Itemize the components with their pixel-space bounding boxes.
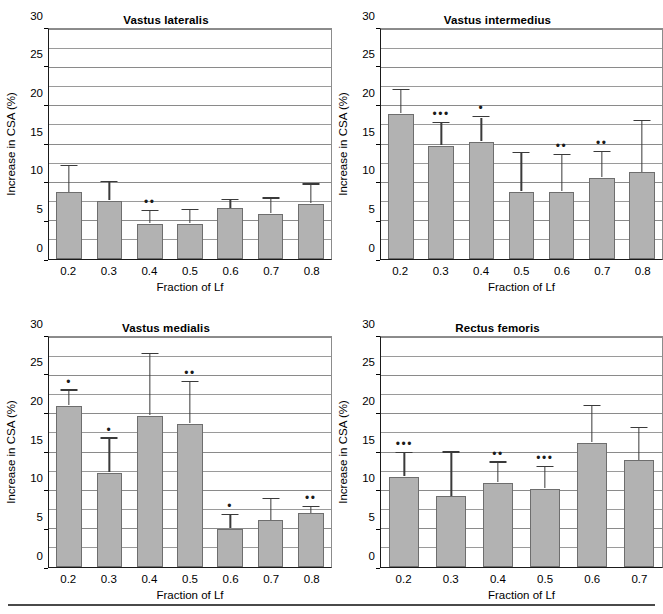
chart-body: Increase in CSA (%)051015202530•••••••0.… <box>0 336 332 601</box>
bar[interactable] <box>56 192 82 259</box>
bar[interactable] <box>469 142 495 259</box>
bar[interactable] <box>589 178 615 259</box>
y-axis-label-wrap: Increase in CSA (%) <box>0 28 22 260</box>
significance-marker: •• <box>144 196 156 208</box>
bar[interactable] <box>549 192 575 259</box>
plot-area: •••••••• <box>380 336 663 568</box>
bar-slot <box>622 29 662 259</box>
bar-slot: •• <box>291 337 331 567</box>
y-tick-label: 30 <box>362 319 375 331</box>
bar-slot <box>49 29 89 259</box>
chart-panel-2: Vastus intermediusIncrease in CSA (%)051… <box>332 0 663 308</box>
bar[interactable] <box>258 214 284 259</box>
bar[interactable] <box>436 496 466 567</box>
error-bar-cap <box>141 210 158 211</box>
error-bar <box>149 211 150 223</box>
x-tick-label: 0.6 <box>542 260 582 277</box>
bar[interactable] <box>56 406 82 567</box>
bar[interactable] <box>177 424 203 567</box>
chart-title: Vastus intermedius <box>332 0 663 28</box>
bar[interactable] <box>629 172 655 259</box>
y-tick-label: 10 <box>362 473 375 485</box>
x-tick-label: 0.4 <box>129 568 170 585</box>
bar[interactable] <box>388 114 414 259</box>
x-tick-label: 0.7 <box>616 568 663 585</box>
error-bar <box>404 453 405 475</box>
bar-slot: • <box>49 337 89 567</box>
y-tick-label: 5 <box>37 204 43 216</box>
bar[interactable] <box>298 513 324 567</box>
figure-panel-grid: Vastus lateralisIncrease in CSA (%)05101… <box>0 0 663 614</box>
x-tick-label: 0.5 <box>170 568 211 585</box>
bar[interactable] <box>97 473 123 567</box>
x-tick-label: 0.3 <box>89 260 130 277</box>
error-bar-cap <box>101 437 118 438</box>
x-tick-label: 0.7 <box>251 260 292 277</box>
bar[interactable] <box>217 529 243 567</box>
y-tick-label: 0 <box>369 243 375 255</box>
x-tick-label: 0.5 <box>522 568 569 585</box>
significance-marker: •• <box>305 492 317 504</box>
y-tick-label: 5 <box>369 512 375 524</box>
y-tick-label: 15 <box>362 435 375 447</box>
error-bar-cap <box>553 154 570 155</box>
chart-title: Vastus medialis <box>0 308 332 336</box>
plot-area: ••••••• <box>48 336 332 568</box>
bar-slot: ••• <box>421 29 461 259</box>
bar[interactable] <box>217 208 243 259</box>
y-axis-label: Increase in CSA (%) <box>5 92 17 196</box>
significance-marker: • <box>478 102 484 114</box>
bar-slot: • <box>210 337 250 567</box>
y-tick-label: 25 <box>362 49 375 61</box>
error-bar <box>310 507 311 512</box>
error-bar-cap <box>513 152 530 153</box>
bar-slot <box>501 29 541 259</box>
bar[interactable] <box>298 204 324 259</box>
bar[interactable] <box>509 192 535 259</box>
bar-series: ••••••• <box>49 337 331 567</box>
y-tick-label: 25 <box>362 357 375 369</box>
bar[interactable] <box>389 477 419 567</box>
error-bar-cap <box>302 506 319 507</box>
error-bar-cap <box>181 381 198 382</box>
bar-slot <box>250 337 290 567</box>
x-axis-label: Fraction of Lf <box>48 585 332 601</box>
chart-title: Rectus femoris <box>332 308 663 336</box>
y-tick-label: 25 <box>30 49 43 61</box>
error-bar <box>270 199 271 214</box>
x-axis-ticks: 0.20.30.40.50.60.7 <box>380 568 663 585</box>
y-axis-ticks: 051015202530 <box>22 336 48 568</box>
bar[interactable] <box>137 224 163 259</box>
bar[interactable] <box>530 489 560 567</box>
bar[interactable] <box>624 460 654 567</box>
plot-column: ••0.20.30.40.50.60.70.8Fraction of Lf <box>48 28 332 293</box>
y-tick-label: 10 <box>30 473 43 485</box>
y-tick-label: 15 <box>30 435 43 447</box>
bar-series: •••••••• <box>381 337 662 567</box>
y-axis-label-wrap: Increase in CSA (%) <box>332 28 354 260</box>
bar-series: •••••••• <box>381 29 662 259</box>
y-tick-label: 30 <box>30 11 43 23</box>
bar[interactable] <box>97 201 123 259</box>
plot-column: •••••••0.20.30.40.50.60.70.8Fraction of … <box>48 336 332 601</box>
bar-slot <box>170 29 210 259</box>
bar[interactable] <box>577 443 607 567</box>
x-axis-ticks: 0.20.30.40.50.60.70.8 <box>380 260 663 277</box>
bar[interactable] <box>258 520 284 567</box>
error-bar <box>270 499 271 520</box>
bar[interactable] <box>177 224 203 259</box>
x-tick-label: 0.4 <box>129 260 170 277</box>
bar[interactable] <box>483 483 513 567</box>
bar[interactable] <box>137 416 163 567</box>
error-bar <box>149 354 150 414</box>
bar[interactable] <box>428 146 454 259</box>
chart-panel-1: Vastus lateralisIncrease in CSA (%)05101… <box>0 0 332 308</box>
chart-body: Increase in CSA (%)051015202530••••••••0… <box>332 28 663 293</box>
error-bar-cap <box>262 498 279 499</box>
error-bar <box>451 453 452 496</box>
bar-slot <box>428 337 475 567</box>
significance-marker: ••• <box>433 108 450 120</box>
x-tick-label: 0.5 <box>170 260 211 277</box>
x-axis-label: Fraction of Lf <box>48 277 332 293</box>
y-tick-label: 30 <box>30 319 43 331</box>
